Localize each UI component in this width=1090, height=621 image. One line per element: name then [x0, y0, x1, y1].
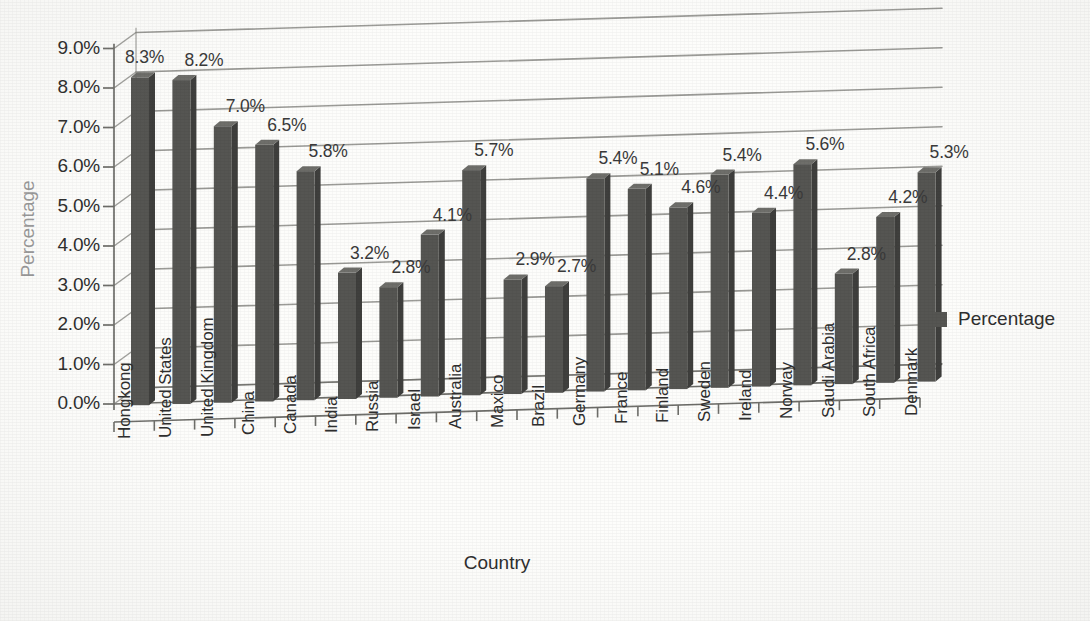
bar-column — [338, 268, 362, 399]
x-axis-category-label: Saudi Arabia — [819, 323, 839, 418]
bar-value-label: 4.6% — [681, 177, 720, 198]
bar-value-label: 2.8% — [391, 257, 430, 278]
y-axis-tick-label: 9.0% — [14, 37, 100, 59]
bar-column — [255, 140, 279, 402]
bar-column — [172, 75, 196, 404]
x-axis-category-label: Norway — [777, 362, 797, 419]
bar-value-label: 4.2% — [888, 187, 927, 208]
y-axis-tick-label: 7.0% — [14, 116, 100, 138]
bar-column — [545, 281, 569, 393]
x-axis-category-label: Sweden — [695, 361, 715, 422]
bar-value-label: 5.3% — [930, 142, 969, 163]
y-axis-title: Percentage — [17, 149, 39, 309]
bar-column — [379, 282, 403, 398]
bar-column — [586, 173, 610, 391]
x-axis-category-label: South Africa — [860, 326, 880, 416]
bar-value-label: 6.5% — [267, 115, 306, 136]
x-axis-category-label: France — [612, 372, 632, 424]
bar-column — [462, 165, 486, 395]
legend-swatch-percentage — [932, 312, 947, 327]
y-axis-tick-label: 0.0% — [14, 392, 100, 414]
x-axis-category-label: Israel — [405, 389, 425, 430]
legend-label-percentage: Percentage — [958, 308, 1055, 330]
y-axis-tick-label: 8.0% — [14, 76, 100, 98]
x-axis-category-label: Germany — [570, 356, 590, 425]
bar-chart: 0.0%1.0%2.0%3.0%4.0%5.0%6.0%7.0%8.0%9.0%… — [0, 0, 1090, 621]
bar-value-label: 4.1% — [433, 205, 472, 226]
x-axis-category-label: United Kingdom — [198, 317, 218, 437]
x-axis-title: Country — [0, 552, 1090, 574]
x-axis-category-label: China — [239, 392, 259, 436]
x-axis-category-label: Denmark — [902, 347, 922, 415]
bar-column — [421, 230, 445, 397]
bar-value-label: 5.4% — [723, 145, 762, 166]
x-axis-category-label: India — [322, 397, 342, 433]
x-axis-category-label: Hongkong — [115, 362, 135, 439]
x-axis-category-label: Maxico — [488, 375, 508, 428]
x-axis-category-label: Ireland — [736, 369, 756, 420]
x-axis-category-label: Finland — [653, 368, 673, 423]
bar-value-label: 8.2% — [184, 50, 223, 71]
x-axis-category-label: United States — [156, 337, 176, 438]
bar-column — [711, 170, 735, 388]
bar-value-label: 5.8% — [309, 141, 348, 162]
bar-value-label: 3.2% — [350, 243, 389, 264]
bar-column — [297, 166, 321, 400]
bar-value-label: 5.4% — [598, 148, 637, 169]
bar-value-label: 5.6% — [805, 134, 844, 155]
bar-value-label: 5.7% — [474, 140, 513, 161]
x-axis-category-label: Australia — [446, 364, 466, 429]
bar-value-label: 5.1% — [640, 159, 679, 180]
bar-value-label: 2.8% — [847, 244, 886, 265]
bar-column — [669, 202, 693, 389]
bar-value-label: 4.4% — [764, 183, 803, 204]
x-axis-title-text: Country — [464, 552, 531, 573]
y-axis-tick-label: 1.0% — [14, 353, 100, 375]
bar-column — [752, 208, 776, 387]
x-axis-category-label: Brazil — [529, 385, 549, 427]
bar-value-label: 7.0% — [226, 96, 265, 117]
bar-value-label: 2.9% — [516, 249, 555, 270]
bar-column — [131, 72, 155, 405]
chart-plot-area — [0, 0, 1090, 621]
bar-value-label: 8.3% — [125, 47, 164, 68]
chart-legend: Percentage — [932, 308, 1055, 330]
bar-column — [628, 184, 652, 390]
bar-value-label: 2.7% — [557, 256, 596, 277]
y-axis-tick-label: 2.0% — [14, 313, 100, 335]
x-axis-category-label: Russia — [363, 380, 383, 431]
x-axis-category-label: Canada — [281, 375, 301, 434]
